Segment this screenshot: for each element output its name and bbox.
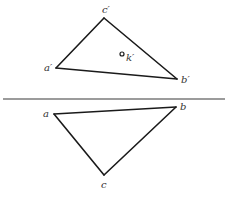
projection-diagram: a′ b′ c′ k′ a b c (0, 0, 232, 197)
label-b: b (180, 101, 186, 112)
edge-b-c (104, 107, 176, 175)
edge-b-prime-a-prime (56, 68, 177, 79)
edge-c-a (54, 114, 104, 175)
top-view-triangle (54, 107, 176, 175)
edge-a-b (54, 107, 176, 114)
label-k-prime: k′ (126, 52, 135, 63)
label-a-prime: a′ (44, 62, 53, 73)
point-k-prime-marker (120, 52, 124, 56)
edge-c-prime-b-prime (104, 18, 177, 79)
label-c-prime: c′ (102, 4, 111, 15)
label-a: a (43, 108, 49, 119)
front-view-triangle (56, 18, 177, 79)
label-b-prime: b′ (181, 74, 190, 85)
label-c: c (101, 179, 107, 190)
edge-a-prime-c-prime (56, 18, 104, 68)
